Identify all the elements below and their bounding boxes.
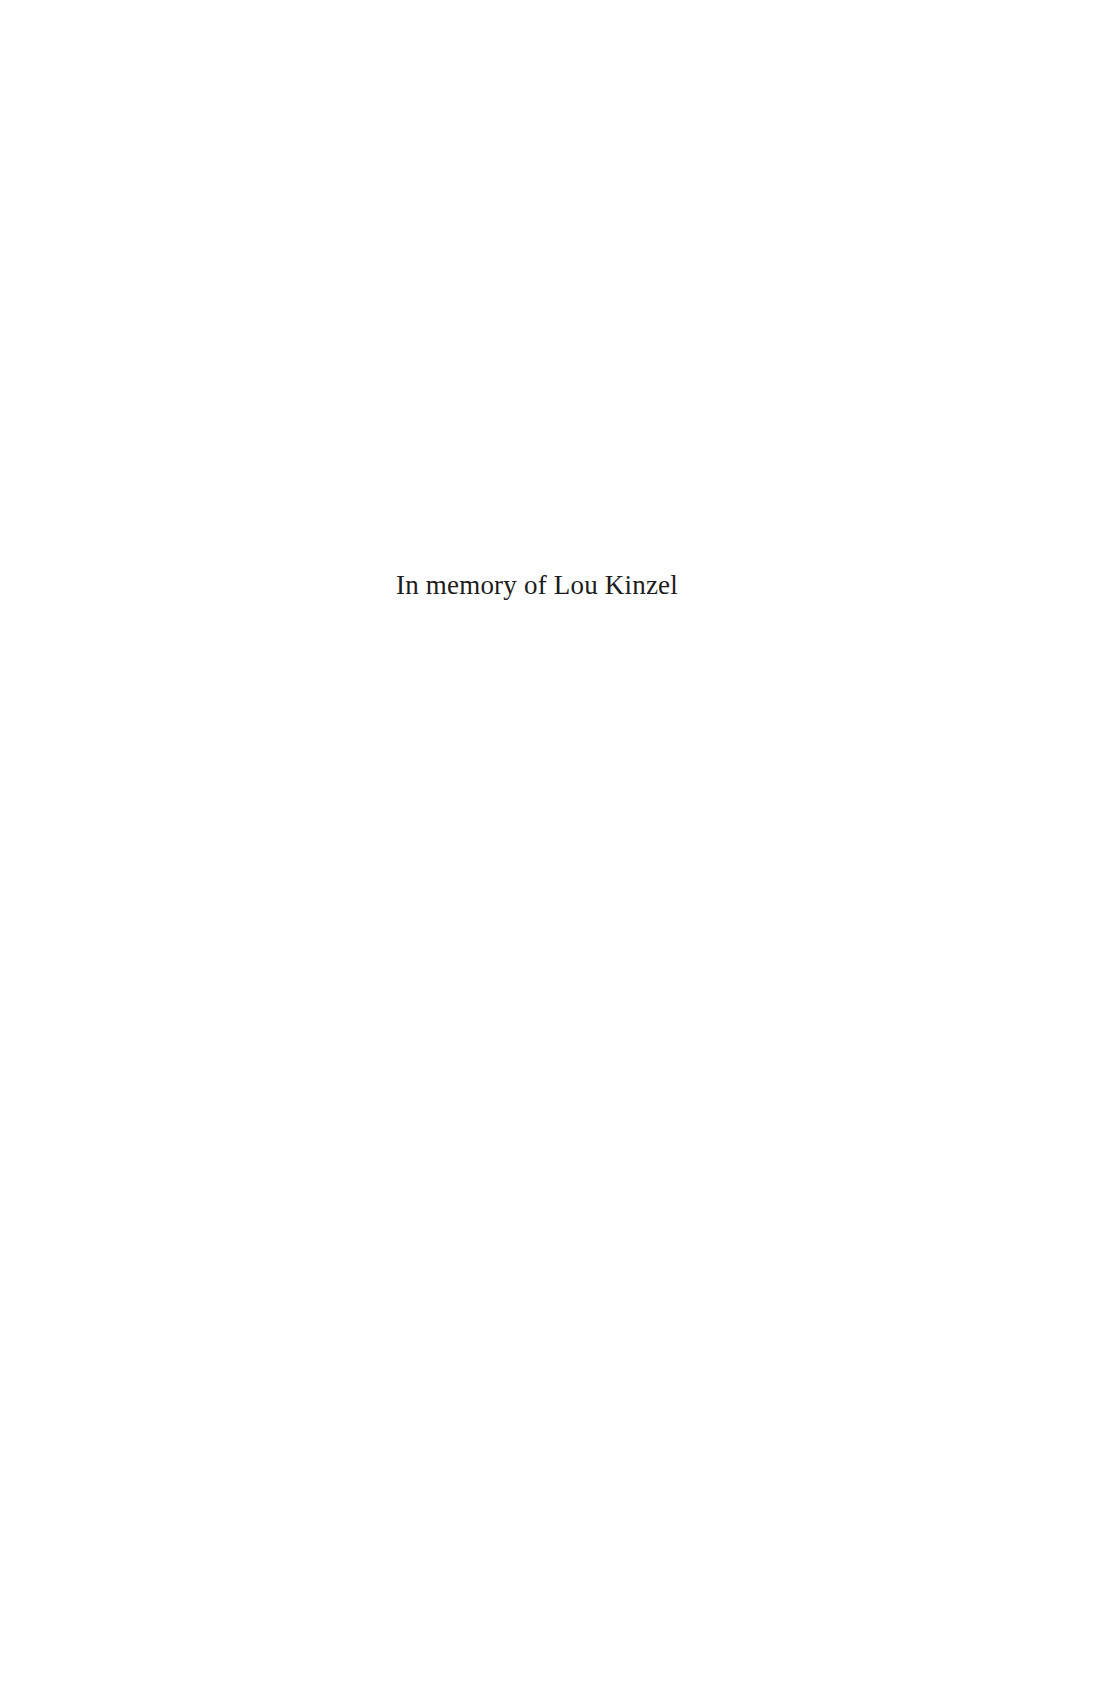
book-page: In memory of Lou Kinzel <box>0 0 1104 1682</box>
dedication-text: In memory of Lou Kinzel <box>396 569 678 601</box>
dedication: In memory of Lou Kinzel <box>0 569 1104 601</box>
